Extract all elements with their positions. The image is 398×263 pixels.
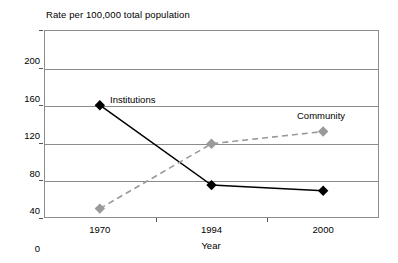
data-point-marker-institutions [206, 180, 216, 190]
y-tick-mark [39, 68, 43, 69]
series-annotation-community: Community [297, 110, 345, 121]
data-point-marker-institutions [318, 186, 328, 196]
x-tick-label: 1994 [201, 224, 222, 235]
data-point-marker-community [95, 203, 105, 213]
y-tick-mark [39, 30, 43, 31]
chart-figure: Rate per 100,000 total population 040801… [0, 0, 398, 263]
y-tick-mark [39, 105, 43, 106]
data-point-marker-community [318, 126, 328, 136]
x-tick-label: 2000 [313, 224, 334, 235]
x-tick-label: 1970 [89, 224, 110, 235]
data-point-marker-community [206, 139, 216, 149]
y-tick-mark [39, 143, 43, 144]
series-annotation-institutions: Institutions [110, 94, 155, 105]
series-layer [0, 0, 398, 263]
data-point-marker-institutions [95, 100, 105, 110]
x-tick-mark [267, 218, 268, 222]
x-tick-mark [156, 218, 157, 222]
x-axis-title: Year [201, 240, 220, 251]
y-tick-mark [39, 180, 43, 181]
y-tick-mark [39, 218, 43, 219]
